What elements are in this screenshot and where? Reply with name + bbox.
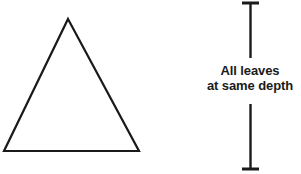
figure-canvas: All leaves at same depth [0, 0, 301, 174]
depth-annotation-line-1: All leaves [196, 63, 301, 78]
tree-shape-triangle [4, 19, 139, 151]
depth-annotation-line-2: at same depth [196, 78, 301, 93]
depth-annotation-label: All leaves at same depth [196, 63, 301, 93]
